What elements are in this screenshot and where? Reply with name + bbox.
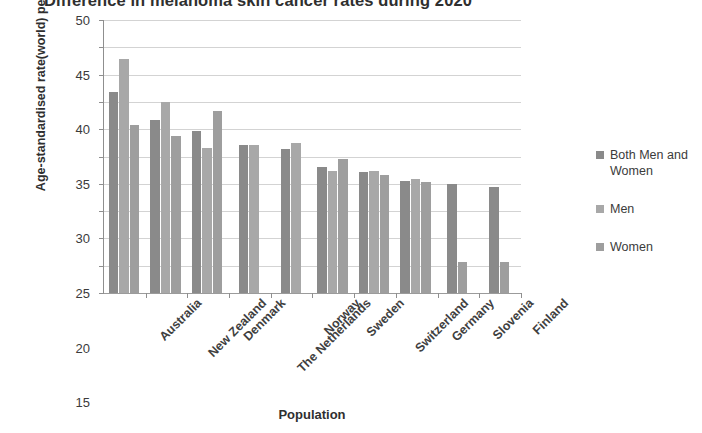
y-tick-label: 50 bbox=[76, 13, 90, 28]
bar bbox=[400, 181, 410, 293]
bar bbox=[281, 149, 291, 293]
bar bbox=[317, 167, 327, 293]
bar-groups bbox=[104, 20, 521, 293]
plot-area: 50454035302520151050 bbox=[103, 20, 521, 293]
legend-item[interactable]: Women bbox=[596, 239, 702, 255]
legend-item[interactable]: Men bbox=[596, 201, 702, 217]
bar-group bbox=[104, 20, 146, 293]
legend-swatch-icon bbox=[596, 205, 604, 213]
legend-item[interactable]: Both Men and Women bbox=[596, 147, 702, 179]
bar bbox=[150, 120, 160, 293]
bar bbox=[328, 171, 338, 293]
bar-group bbox=[229, 20, 271, 293]
bar bbox=[291, 143, 301, 293]
legend-swatch-icon bbox=[596, 243, 604, 251]
bar-group bbox=[396, 20, 438, 293]
bar bbox=[202, 148, 212, 293]
bar bbox=[213, 111, 223, 293]
x-tick-label: Slovenia bbox=[490, 296, 536, 342]
bar bbox=[171, 136, 181, 293]
y-tick-label: 30 bbox=[76, 231, 90, 246]
bar bbox=[380, 175, 390, 293]
x-axis-tick-labels: AustraliaNew ZealandDenmarkThe Netherlan… bbox=[103, 296, 521, 386]
bar bbox=[359, 172, 369, 293]
bar bbox=[447, 184, 457, 293]
melanoma-rates-bar-chart: Difference in melanoma skin cancer rates… bbox=[0, 0, 702, 433]
bar bbox=[119, 59, 129, 293]
x-tick-label: Australia bbox=[157, 296, 205, 344]
bar bbox=[338, 159, 348, 293]
bar bbox=[109, 92, 119, 293]
bar bbox=[192, 131, 202, 293]
bar bbox=[161, 102, 171, 293]
bar-group bbox=[187, 20, 229, 293]
y-tick-label: 15 bbox=[76, 395, 90, 410]
bar-group bbox=[438, 20, 480, 293]
x-tick-label: The Netherlands bbox=[295, 296, 374, 375]
y-axis-title: Age-standardised rate(world) per 100,000 bbox=[33, 0, 50, 194]
legend-label: Women bbox=[610, 239, 653, 255]
y-tick-label: 25 bbox=[76, 286, 90, 301]
bar-group bbox=[313, 20, 355, 293]
bar bbox=[411, 179, 421, 293]
bar bbox=[239, 145, 249, 294]
bar bbox=[369, 171, 379, 293]
bar bbox=[458, 262, 468, 293]
chart-legend: Both Men and WomenMenWomen bbox=[596, 147, 702, 277]
bar bbox=[421, 182, 431, 293]
x-axis-tick bbox=[521, 293, 522, 298]
bar-group bbox=[354, 20, 396, 293]
y-tick-label: 45 bbox=[76, 67, 90, 82]
x-tick-label: Finland bbox=[530, 296, 571, 337]
bar bbox=[500, 262, 510, 293]
legend-swatch-icon bbox=[596, 151, 604, 159]
bar bbox=[249, 145, 259, 294]
bar bbox=[130, 125, 140, 293]
y-tick-label: 40 bbox=[76, 122, 90, 137]
y-axis-tick: 0 bbox=[99, 293, 104, 294]
legend-label: Both Men and Women bbox=[610, 147, 702, 179]
chart-title: Difference in melanoma skin cancer rates… bbox=[44, 0, 684, 9]
bar-group bbox=[479, 20, 521, 293]
y-tick-label: 35 bbox=[76, 176, 90, 191]
legend-label: Men bbox=[610, 201, 634, 217]
y-tick-label: 20 bbox=[76, 340, 90, 355]
bar-group bbox=[271, 20, 313, 293]
x-axis-title: Population bbox=[103, 407, 521, 422]
bar bbox=[489, 187, 499, 293]
bar-group bbox=[146, 20, 188, 293]
